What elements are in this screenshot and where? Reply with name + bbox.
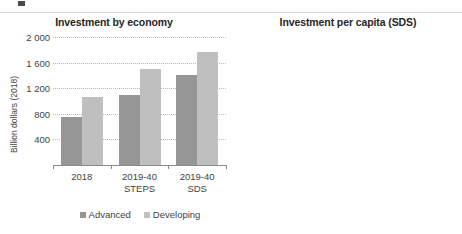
legend-swatch-icon [144, 212, 150, 218]
legend-item-advanced: Advanced [80, 209, 131, 220]
y-tick-label: 2 000 [26, 32, 50, 43]
bar-developing-1 [140, 69, 161, 165]
left-y-axis-ticks: 2 0001 6001 200800400 [14, 31, 50, 165]
top-crop-artifact [18, 1, 25, 6]
left-plot-area [53, 31, 226, 165]
chart-panel-investment-by-economy: Investment by economy Billion dollars (2… [0, 13, 231, 234]
left-chart-title: Investment by economy [14, 16, 214, 28]
x-axis-tick [226, 165, 227, 169]
right-chart-title: Investment per capita (SDS) [241, 16, 455, 28]
x-axis-tick [168, 165, 169, 169]
left-x-axis-line [53, 165, 227, 166]
y-tick-label: 800 [34, 108, 50, 119]
chart-panel-investment-per-capita: Investment per capita (SDS) Dollars (201… [231, 13, 462, 234]
bar-advanced-2 [176, 75, 197, 165]
left-chart-legend: AdvancedDeveloping [53, 209, 227, 220]
x-axis-tick [111, 165, 112, 169]
x-axis-tick [53, 165, 54, 169]
x-tick-label: 2019-40SDS [157, 171, 237, 194]
gridline [53, 37, 226, 38]
bar-advanced-1 [119, 95, 140, 165]
y-tick-label: 1 200 [26, 83, 50, 94]
legend-item-developing: Developing [144, 209, 201, 220]
y-tick-label: 400 [34, 134, 50, 145]
bar-developing-2 [197, 52, 218, 165]
legend-label: Advanced [89, 209, 131, 220]
y-tick-label: 1 600 [26, 57, 50, 68]
bar-advanced-0 [61, 117, 82, 165]
legend-swatch-icon [80, 212, 86, 218]
legend-label: Developing [153, 209, 201, 220]
bar-developing-0 [82, 97, 103, 165]
